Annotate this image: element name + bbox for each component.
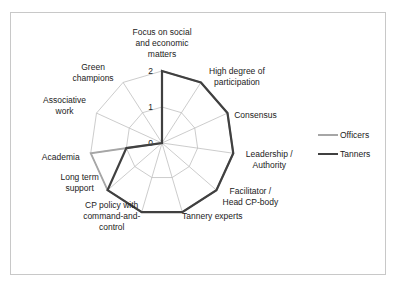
axis-label: Tannery experts (182, 211, 242, 221)
axis-label: Greenchampions (73, 62, 114, 83)
axis-label: High degree ofparticipation (209, 66, 265, 87)
series-tanners (108, 71, 234, 212)
axis-label: Facilitator /Head CP-body (223, 186, 280, 207)
legend-item-tanners: Tanners (318, 144, 370, 163)
legend-swatch-tanners (318, 153, 338, 155)
tick-label: 0 (148, 138, 153, 148)
axis-label: Associativework (43, 95, 86, 116)
legend-label-tanners: Tanners (340, 149, 370, 159)
legend: Officers Tanners (318, 125, 370, 163)
tick-label: 2 (148, 66, 153, 76)
grid-spoke (162, 143, 233, 153)
tick-label: 1 (148, 102, 153, 112)
axis-label: Focus on socialand economicmatters (132, 27, 191, 59)
axis-label: Long termsupport (60, 172, 98, 193)
axis-label: Consensus (234, 110, 277, 120)
axis-label: CP policy withcommand-and-control (83, 200, 140, 232)
axis-label: Academia (42, 152, 80, 162)
axis-label: Leadership /Authority (246, 149, 293, 170)
grid-spoke (162, 143, 216, 190)
legend-label-officers: Officers (340, 130, 369, 140)
legend-item-officers: Officers (318, 125, 370, 144)
legend-swatch-officers (318, 134, 338, 136)
